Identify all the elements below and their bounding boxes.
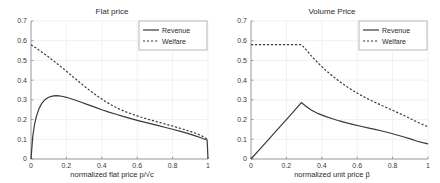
x-tick-label: 0 (29, 162, 33, 169)
y-tick-label: 0.3 (17, 96, 27, 103)
chart-flat-price: 00.10.20.30.40.50.60.700.20.40.60.81 Fla… (0, 0, 220, 183)
y-tick-label: 0.5 (17, 57, 27, 64)
y-tick-label: 0 (243, 155, 247, 162)
series-line-revenue (251, 103, 428, 159)
x-tick-label: 0.2 (282, 162, 292, 169)
panel-flat-price: 00.10.20.30.40.50.60.700.20.40.60.81 Fla… (0, 0, 220, 183)
series-line-welfare (251, 45, 428, 127)
y-tick-label: 0.5 (237, 57, 247, 64)
panel-volume-price: 00.10.20.30.40.50.60.700.20.40.60.81 Vol… (220, 0, 440, 183)
y-tick-label: 0.6 (237, 37, 247, 44)
chart-volume-price-legend[interactable]: Revenue Welfare (359, 21, 427, 50)
chart-volume-price: 00.10.20.30.40.50.60.700.20.40.60.81 Vol… (220, 0, 440, 183)
x-tick-label: 0.8 (388, 162, 398, 169)
legend-label-revenue: Revenue (382, 27, 410, 34)
y-tick-label: 0.2 (237, 116, 247, 123)
y-tick-label: 0.4 (237, 77, 247, 84)
legend-label-revenue: Revenue (162, 27, 190, 34)
chart-flat-price-series (31, 45, 208, 159)
x-tick-label: 0.4 (317, 162, 327, 169)
chart-flat-price-xlabel: normalized flat price p/√c (70, 170, 154, 179)
x-tick-label: 1 (206, 162, 210, 169)
x-tick-label: 0.8 (168, 162, 178, 169)
y-tick-label: 0 (23, 155, 27, 162)
y-tick-label: 0.7 (17, 17, 27, 24)
x-tick-label: 0.6 (352, 162, 362, 169)
y-tick-label: 0.3 (237, 96, 247, 103)
y-tick-label: 0.1 (17, 136, 27, 143)
chart-flat-price-legend[interactable]: Revenue Welfare (139, 21, 207, 50)
series-line-revenue (31, 96, 208, 159)
chart-volume-price-series (251, 45, 428, 159)
x-tick-label: 0.4 (97, 162, 107, 169)
x-tick-label: 1 (426, 162, 430, 169)
y-tick-label: 0.1 (237, 136, 247, 143)
chart-volume-price-xlabel: normalized unit price β (294, 170, 370, 179)
legend-box (139, 21, 207, 50)
x-tick-label: 0.2 (62, 162, 72, 169)
legend-label-welfare: Welfare (162, 38, 186, 45)
y-tick-label: 0.2 (17, 116, 27, 123)
y-tick-label: 0.6 (17, 37, 27, 44)
legend-box (359, 21, 427, 50)
series-line-welfare (31, 45, 208, 140)
legend-label-welfare: Welfare (382, 38, 406, 45)
y-tick-label: 0.4 (17, 77, 27, 84)
figure-two-panel-chart: 00.10.20.30.40.50.60.700.20.40.60.81 Fla… (0, 0, 440, 183)
chart-volume-price-title: Volume Price (308, 7, 356, 16)
x-tick-label: 0.6 (132, 162, 142, 169)
chart-flat-price-title: Flat price (96, 7, 129, 16)
y-tick-label: 0.7 (237, 17, 247, 24)
x-tick-label: 0 (249, 162, 253, 169)
